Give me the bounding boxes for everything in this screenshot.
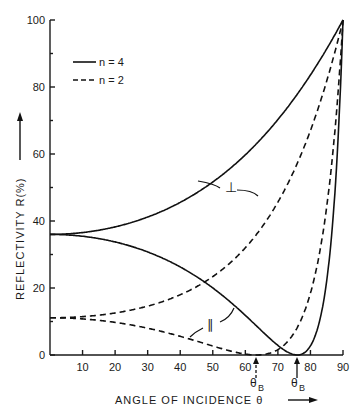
reflectivity-chart: 020406080100102030405060708090 n = 4 n =… [0, 0, 364, 418]
curves [50, 20, 343, 355]
legend-solid-label: n = 4 [99, 56, 124, 68]
par-pointer-2 [190, 328, 203, 337]
x-tick-label: 10 [76, 361, 88, 373]
par-label: ∥ [207, 317, 214, 332]
svg-text:θ: θ [291, 376, 298, 390]
x-tick-label: 40 [174, 361, 186, 373]
svg-text:B: B [299, 383, 305, 393]
brewster-n4: θ B [291, 357, 305, 393]
brewster-n2: θ B [250, 357, 264, 393]
x-axis-label: ANGLE OF INCIDENCE θ [115, 394, 263, 406]
y-tick-label: 40 [33, 215, 45, 227]
y-tick-label: 20 [33, 282, 45, 294]
x-tick-label: 90 [337, 361, 349, 373]
n2-par-curve [50, 20, 343, 355]
perp-pointer-2 [237, 190, 258, 196]
x-tick-label: 50 [207, 361, 219, 373]
x-arrow-icon [309, 397, 318, 403]
y-arrow-icon [17, 112, 23, 121]
x-tick-label: 30 [142, 361, 154, 373]
legend: n = 4 n = 2 [73, 56, 124, 86]
par-pointer-1 [220, 308, 234, 322]
legend-dashed-label: n = 2 [99, 74, 124, 86]
y-axis-label: REFLECTIVITY R(%) [14, 177, 26, 300]
y-tick-label: 80 [33, 81, 45, 93]
x-tick-label: 60 [239, 361, 251, 373]
n2-perp-curve [50, 20, 343, 318]
x-tick-label: 70 [272, 361, 284, 373]
y-tick-label: 60 [33, 148, 45, 160]
y-tick-label: 0 [39, 349, 45, 361]
x-tick-label: 80 [304, 361, 316, 373]
svg-text:θ: θ [250, 376, 257, 390]
n4-perp-curve [50, 20, 343, 234]
n4-par-curve [50, 20, 343, 355]
svg-text:B: B [258, 383, 264, 393]
perp-label: ⊥ [225, 179, 237, 195]
axes [50, 20, 343, 355]
x-tick-label: 20 [109, 361, 121, 373]
y-tick-label: 100 [27, 14, 45, 26]
